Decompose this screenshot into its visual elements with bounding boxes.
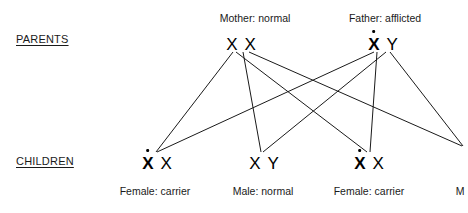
pedigree-diagram: PARENTS CHILDREN XXMother: normalXYFathe…: [0, 0, 468, 213]
allele-child-2-2: Y: [267, 155, 280, 172]
inheritance-line-father-x-to-child-1: [157, 52, 374, 152]
allele-child-2-1: X: [248, 155, 261, 172]
allele-mother-2: X: [244, 36, 257, 53]
caption-mother: Mother: normal: [220, 12, 291, 24]
allele-child-1-1-affected: X: [141, 155, 154, 172]
genotype-child-2: XY: [248, 155, 280, 172]
allele-father-1-affected: X: [367, 36, 380, 53]
genotype-child-1: XX: [141, 155, 173, 172]
allele-child-1-2: X: [160, 155, 173, 172]
genotype-father: XY: [367, 36, 399, 53]
allele-mother-1: X: [225, 36, 238, 53]
inheritance-line-father-x-to-child-3: [370, 52, 377, 152]
inheritance-line-mother-x2-to-child-4: [249, 52, 462, 146]
inheritance-line-father-y-to-child-2: [263, 52, 386, 152]
caption-child-2: Male: normal: [233, 185, 294, 197]
row-label-children: CHILDREN: [16, 155, 74, 167]
inheritance-line-mother-x2-to-child-2: [243, 52, 261, 152]
row-label-parents: PARENTS: [16, 33, 69, 45]
caption-child-4: M: [456, 185, 465, 197]
inheritance-line-father-y-to-child-4: [390, 52, 463, 146]
allele-father-2: Y: [386, 36, 399, 53]
genotype-child-3: XX: [353, 155, 385, 172]
inheritance-line-mother-x1-to-child-3: [236, 52, 367, 152]
caption-father: Father: afflicted: [349, 12, 421, 24]
allele-child-3-1-affected: X: [353, 155, 366, 172]
caption-child-1: Female: carrier: [120, 185, 191, 197]
allele-child-3-2: X: [372, 155, 385, 172]
inheritance-line-mother-x1-to-child-1: [156, 52, 233, 152]
inheritance-lines-layer: [0, 0, 468, 213]
caption-child-3: Female: carrier: [334, 185, 405, 197]
genotype-mother: XX: [225, 36, 257, 53]
